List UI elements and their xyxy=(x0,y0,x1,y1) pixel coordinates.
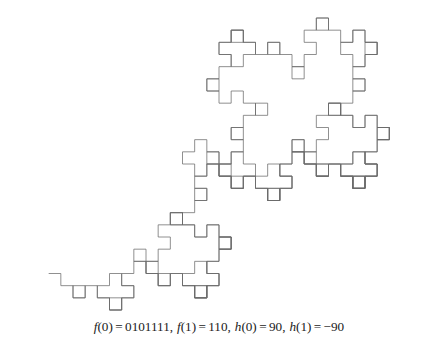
caption-f1-argument: (1) xyxy=(181,319,196,334)
caption-h1-value: −90 xyxy=(324,319,345,334)
caption-h0-value: 90 xyxy=(269,319,282,334)
caption-f1-value: 110 xyxy=(208,319,227,334)
fractal-curve-svg xyxy=(0,0,438,313)
caption-h1-symbol: h xyxy=(289,319,296,334)
caption-f0-equals: = xyxy=(113,319,125,334)
caption-h0-argument: (0) xyxy=(241,319,256,334)
caption-h1-argument: (1) xyxy=(296,319,311,334)
fractal-figure: f(0)=0101111,f(1)=110,h(0)=90,h(1)=−90 xyxy=(0,0,438,353)
caption-h1-equals: = xyxy=(311,319,323,334)
fractal-curve-canvas xyxy=(0,0,438,313)
caption-f0-argument: (0) xyxy=(97,319,112,334)
figure-caption: f(0)=0101111,f(1)=110,h(0)=90,h(1)=−90 xyxy=(0,318,438,336)
caption-h0-equals: = xyxy=(257,319,269,334)
caption-separator-2: , xyxy=(228,319,235,334)
caption-f0-value: 0101111 xyxy=(125,319,170,334)
caption-separator-1: , xyxy=(170,319,177,334)
caption-f1-equals: = xyxy=(196,319,208,334)
fractal-curve-path xyxy=(49,18,390,310)
